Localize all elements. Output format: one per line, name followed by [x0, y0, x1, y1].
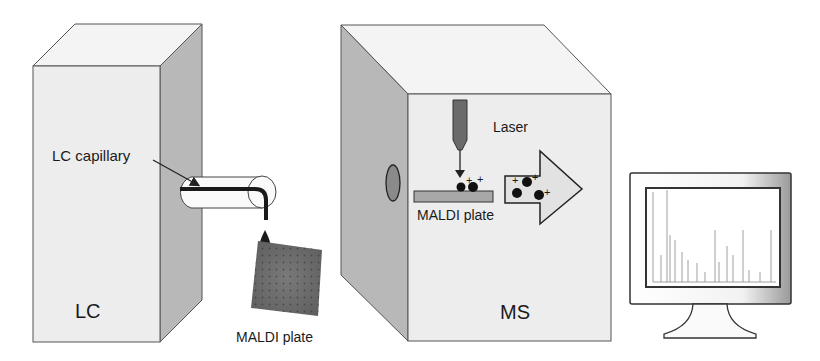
ms-label: MS [500, 301, 530, 323]
ms-inlet-port [386, 165, 400, 201]
svg-text:+: + [512, 174, 518, 186]
svg-text:+: + [477, 173, 483, 185]
svg-text:+: + [466, 174, 472, 186]
svg-text:+: + [532, 171, 538, 183]
maldi-plate-outside [251, 241, 322, 316]
lc-capillary-label: LC capillary [52, 147, 131, 164]
lc-instrument [33, 24, 202, 342]
maldi-plate-inside [414, 191, 493, 202]
lc-label: LC [75, 300, 101, 322]
maldi-plate-outside-label: MALDI plate [236, 329, 313, 345]
computer-monitor [630, 173, 791, 338]
maldi-plate-inside-label: MALDI plate [417, 207, 494, 223]
laser-label: Laser [493, 119, 528, 135]
svg-text:+: + [544, 186, 550, 198]
